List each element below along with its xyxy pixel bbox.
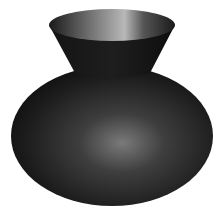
vase-rim-opening bbox=[49, 9, 175, 41]
vase-illustration bbox=[0, 0, 223, 212]
vase-render bbox=[0, 0, 223, 212]
vase-body bbox=[11, 66, 213, 206]
